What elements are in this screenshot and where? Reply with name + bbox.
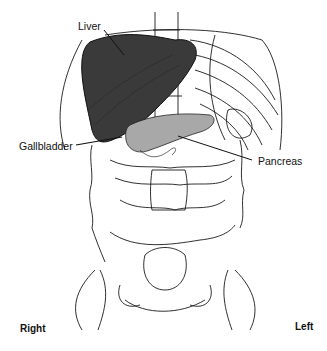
abdomen-diagram [0, 0, 327, 351]
label-gallbladder: Gallbladder [19, 140, 73, 152]
label-left: Left [295, 321, 313, 332]
label-liver: Liver [78, 20, 101, 32]
intestines [90, 140, 244, 262]
pelvis [76, 248, 255, 331]
label-pancreas: Pancreas [258, 155, 302, 167]
label-right: Right [20, 323, 46, 334]
